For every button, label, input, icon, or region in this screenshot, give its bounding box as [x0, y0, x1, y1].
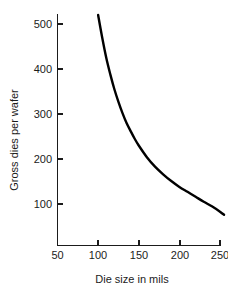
y-tick-label-300: 300 [34, 108, 52, 120]
x-axis-title: Die size in mils [95, 273, 169, 285]
gross-dies-per-wafer-chart: 500 400 300 200 100 50 100 150 200 250 G… [0, 0, 228, 295]
x-tick-label-100: 100 [89, 249, 107, 261]
chart-background [0, 0, 228, 295]
x-tick-label-150: 150 [130, 249, 148, 261]
x-tick-label-50: 50 [51, 249, 63, 261]
x-tick-label-250: 250 [211, 249, 228, 261]
y-tick-label-100: 100 [34, 198, 52, 210]
y-tick-label-400: 400 [34, 63, 52, 75]
y-axis-title: Gross dies per wafer [8, 89, 20, 191]
y-tick-label-500: 500 [34, 18, 52, 30]
y-tick-label-200: 200 [34, 153, 52, 165]
x-tick-label-200: 200 [171, 249, 189, 261]
